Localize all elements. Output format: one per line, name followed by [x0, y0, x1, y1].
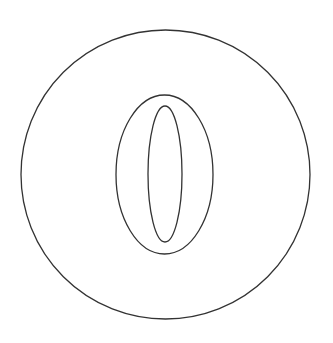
circled-zero-figure: outlined numeral zero inside a circle: [0, 0, 333, 343]
outer-circle: [21, 30, 310, 319]
zero-outer-contour: [116, 95, 213, 254]
zero-inner-contour: [148, 106, 182, 242]
zero-glyph-icon: [116, 95, 213, 254]
